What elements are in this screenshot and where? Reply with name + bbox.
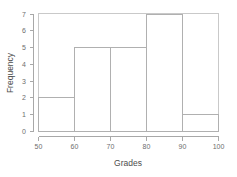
- x-axis-ticks: [39, 137, 219, 141]
- y-tick-label-4: 4: [22, 61, 26, 68]
- y-axis-tick-labels: 0 1 2 3 4 5 6 7: [22, 11, 26, 135]
- x-tick-label-100: 100: [213, 143, 225, 150]
- y-axis-ticks: [30, 15, 34, 132]
- bar-80-90: [147, 15, 183, 132]
- y-tick-label-6: 6: [22, 27, 26, 34]
- x-tick-label-50: 50: [35, 143, 43, 150]
- bar-90-100: [183, 115, 219, 132]
- bar-60-70: [75, 48, 111, 132]
- y-axis-title: Frequency: [5, 52, 15, 93]
- x-tick-label-70: 70: [107, 143, 115, 150]
- x-tick-label-90: 90: [179, 143, 187, 150]
- x-axis-title: Grades: [114, 158, 142, 168]
- bar-70-80: [111, 48, 147, 132]
- y-tick-label-1: 1: [22, 111, 26, 118]
- plot-frame: [39, 14, 219, 132]
- y-tick-label-3: 3: [22, 78, 26, 85]
- histogram-chart: 0 1 2 3 4 5 6 7 50 60 70 80 90 100: [0, 0, 237, 177]
- x-axis-tick-labels: 50 60 70 80 90 100: [35, 143, 225, 150]
- bar-50-60: [39, 98, 75, 132]
- y-tick-label-0: 0: [22, 128, 26, 135]
- x-tick-label-80: 80: [143, 143, 151, 150]
- y-tick-label-7: 7: [22, 11, 26, 18]
- y-tick-label-5: 5: [22, 44, 26, 51]
- y-tick-label-2: 2: [22, 94, 26, 101]
- chart-canvas: 0 1 2 3 4 5 6 7 50 60 70 80 90 100: [0, 0, 237, 177]
- bar-series: [39, 15, 219, 132]
- x-tick-label-60: 60: [71, 143, 79, 150]
